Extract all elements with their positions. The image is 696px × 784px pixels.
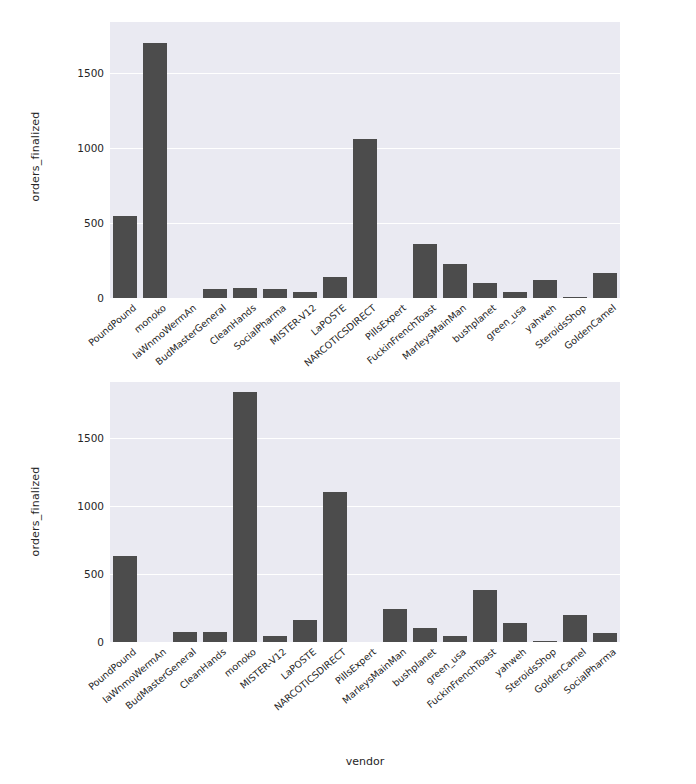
bar xyxy=(203,632,226,642)
figure-canvas: orders_finalized 050010001500 PoundPound… xyxy=(0,0,696,784)
bar xyxy=(443,636,466,642)
bar xyxy=(473,283,496,298)
y-tick-label: 500 xyxy=(64,218,104,228)
y-tick-label: 1000 xyxy=(64,143,104,153)
y-tick-label: 1500 xyxy=(64,433,104,443)
bar xyxy=(323,492,346,642)
bar xyxy=(203,289,226,298)
bar-chart-top: orders_finalized 050010001500 PoundPound… xyxy=(0,0,696,370)
bar xyxy=(533,280,556,298)
bar xyxy=(383,609,406,642)
gridline xyxy=(110,506,620,507)
bar xyxy=(173,632,196,642)
bar xyxy=(533,641,556,642)
y-tick-label: 1500 xyxy=(64,68,104,78)
bar xyxy=(503,292,526,298)
y-axis-ticks-bottom: 050010001500 xyxy=(58,382,104,642)
bar xyxy=(413,244,436,298)
y-tick-label: 0 xyxy=(64,637,104,647)
gridline xyxy=(110,574,620,575)
bar xyxy=(593,273,616,299)
bar xyxy=(293,620,316,642)
bar xyxy=(263,636,286,642)
bar xyxy=(563,615,586,642)
y-axis-ticks-top: 050010001500 xyxy=(58,22,104,298)
bar xyxy=(263,289,286,298)
bar xyxy=(593,633,616,642)
gridline xyxy=(110,438,620,439)
bar xyxy=(413,628,436,642)
bar xyxy=(443,264,466,298)
bar xyxy=(143,43,166,298)
bar xyxy=(353,139,376,298)
bar xyxy=(323,277,346,298)
x-axis-ticks-bottom: PoundPoundlaWnmoWermAnBudMasterGeneralCl… xyxy=(110,644,620,734)
bar-chart-bottom: orders_finalized 050010001500 PoundPound… xyxy=(0,370,696,784)
y-tick-label: 1000 xyxy=(64,501,104,511)
y-axis-label-bottom: orders_finalized xyxy=(29,452,42,572)
x-axis-label: vendor xyxy=(110,755,620,768)
y-axis-label-top: orders_finalized xyxy=(29,97,42,217)
bar xyxy=(293,292,316,298)
bar xyxy=(233,392,256,642)
plot-area-top xyxy=(110,22,620,298)
bar xyxy=(113,556,136,642)
bar xyxy=(563,297,586,298)
y-tick-label: 0 xyxy=(64,293,104,303)
bar xyxy=(233,288,256,298)
bar xyxy=(473,590,496,642)
bar xyxy=(113,216,136,299)
bar xyxy=(503,623,526,642)
gridline xyxy=(110,73,620,74)
y-tick-label: 500 xyxy=(64,569,104,579)
plot-area-bottom xyxy=(110,382,620,642)
